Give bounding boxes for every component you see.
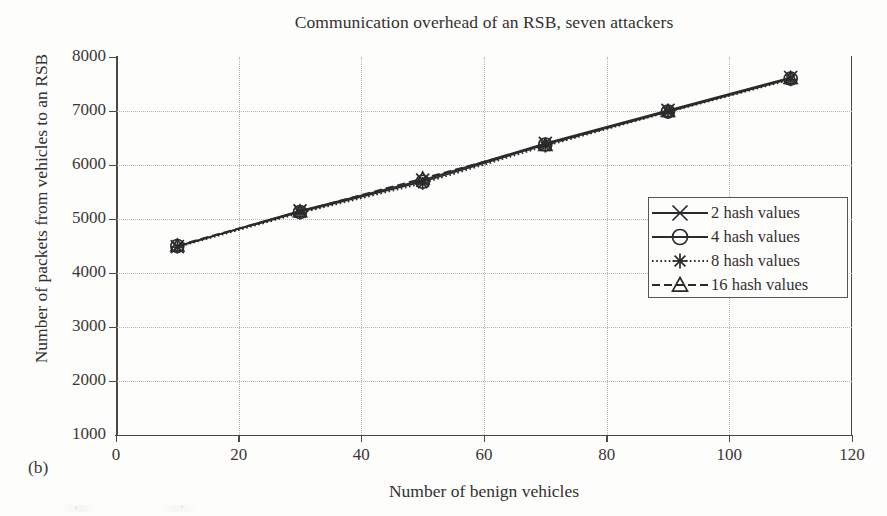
legend-item[interactable]: 2 hash values <box>649 201 847 225</box>
legend-label: 2 hash values <box>711 205 800 222</box>
chart-legend: 2 hash values 4 hash values 8 hash value… <box>648 197 848 298</box>
legend-marker-x-cross-icon <box>649 202 711 224</box>
legend-item[interactable]: 16 hash values <box>649 273 847 297</box>
legend-marker-circle-icon <box>649 226 711 248</box>
legend-label: 4 hash values <box>711 229 800 246</box>
legend-item[interactable]: 8 hash values <box>649 249 847 273</box>
legend-marker-asterisk-icon <box>649 250 711 272</box>
y-axis-title: Number of packets from vehicles to an RS… <box>31 29 52 389</box>
legend-item[interactable]: 4 hash values <box>649 225 847 249</box>
subfigure-label: (b) <box>28 457 48 478</box>
legend-label: 16 hash values <box>711 277 808 294</box>
legend-marker-triangle-icon <box>649 274 711 296</box>
x-axis-title: Number of benign vehicles <box>116 481 852 502</box>
legend-label: 8 hash values <box>711 253 800 270</box>
scan-artifact <box>62 505 302 512</box>
figure-panel: Communication overhead of an RSB, seven … <box>0 0 887 516</box>
